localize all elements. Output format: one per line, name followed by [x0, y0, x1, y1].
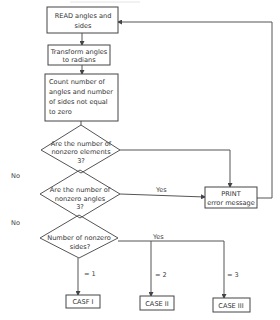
- print-box-line1: PRINT: [221, 190, 241, 198]
- label-eq2: = 2: [155, 271, 167, 279]
- case-1-box: CASF I: [66, 295, 100, 308]
- decision-nonzero-angles: Are the number of nonzero angles 3?: [40, 170, 120, 218]
- transform-box: Transform angles to radians: [48, 45, 110, 65]
- count-box-line1: Count number of: [49, 78, 106, 86]
- count-box: Count number of angles and number of sid…: [45, 74, 118, 121]
- decision-elements-line1: Are the number of: [51, 140, 112, 148]
- decision-sides-line2: sides?: [70, 243, 91, 251]
- count-box-line4: to zero: [49, 108, 72, 116]
- decision-nonzero-sides: Number of nonzero sides?: [40, 215, 118, 258]
- flowchart: READ angles and sides Transform angles t…: [0, 0, 280, 320]
- count-box-line3: of sides not equal: [49, 98, 108, 106]
- label-yes-sides: Yes: [152, 233, 164, 241]
- read-box-line2: sides: [75, 22, 93, 30]
- decision-angles-line1: Are the number of: [50, 186, 111, 194]
- label-yes-angles: Yes: [155, 186, 167, 194]
- case-2-box: CASE II: [140, 296, 174, 310]
- print-error-box: PRINT error message: [205, 187, 257, 208]
- label-no-angles: No: [11, 219, 20, 227]
- read-box-line1: READ angles and: [55, 12, 112, 20]
- label-eq3: = 3: [227, 271, 239, 279]
- transform-box-line2: to radians: [62, 56, 96, 64]
- decision-elements-line2: nonzero elements: [51, 148, 111, 156]
- label-eq1: = 1: [84, 270, 96, 278]
- read-box: READ angles and sides: [47, 7, 118, 33]
- case-3-box: CASE III: [213, 298, 250, 312]
- case-2-label: CASE II: [145, 300, 169, 308]
- print-box-line2: error message: [207, 199, 255, 207]
- decision-sides-line1: Number of nonzero: [47, 234, 111, 242]
- count-box-line2: angles and number: [49, 88, 113, 96]
- edge-angles-yes-print: [120, 194, 205, 197]
- decision-elements-line3: 3?: [77, 157, 85, 165]
- decision-nonzero-elements: Are the number of nonzero elements 3?: [41, 125, 120, 173]
- transform-box-line1: Transform angles: [50, 48, 108, 56]
- decision-angles-line3: 3?: [76, 203, 84, 211]
- decision-angles-line2: nonzero angles: [55, 195, 106, 203]
- case-3-label: CASE III: [218, 302, 243, 310]
- edge-print-loop-read: [118, 22, 272, 198]
- label-no-elements: No: [11, 172, 20, 180]
- edge-elements-yes-print: [120, 150, 230, 187]
- case-1-label: CASF I: [72, 298, 93, 306]
